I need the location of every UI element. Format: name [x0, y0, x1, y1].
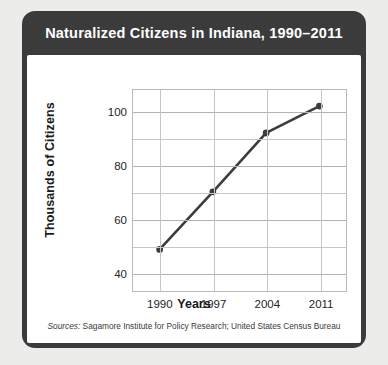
sources-note: Sources: Sagamore Institute for Policy R…	[27, 321, 361, 331]
series-line	[160, 106, 320, 249]
data-point-marker	[263, 130, 270, 137]
y-axis-tick-label: 100	[108, 106, 127, 118]
gridline-vertical	[214, 90, 215, 291]
gridline-horizontal	[133, 166, 346, 167]
gridline-vertical	[267, 90, 268, 291]
gridline-horizontal-minor	[133, 247, 346, 248]
gridline-horizontal	[133, 220, 346, 221]
page-title: Naturalized Citizens in Indiana, 1990–20…	[45, 25, 343, 41]
y-axis-tick-label: 80	[114, 160, 127, 172]
chart-card: Naturalized Citizens in Indiana, 1990–20…	[22, 11, 366, 348]
y-axis-tick-label: 60	[114, 214, 127, 226]
sources-prefix: Sources:	[48, 321, 81, 331]
x-axis-label: Years	[27, 297, 361, 311]
gridline-vertical	[321, 90, 322, 291]
y-axis-label: Thousands of Citizens	[43, 85, 57, 255]
plot-area: 4060801001990199720042011	[132, 89, 347, 292]
gridline-vertical	[160, 90, 161, 291]
line-series	[133, 90, 346, 291]
gridline-horizontal-minor	[133, 139, 346, 140]
chart-page: Naturalized Citizens in Indiana, 1990–20…	[0, 0, 388, 365]
chart-panel: Thousands of Citizens 406080100199019972…	[27, 55, 361, 343]
y-axis-tick-label: 40	[114, 268, 127, 280]
chart-title-bar: Naturalized Citizens in Indiana, 1990–20…	[22, 11, 366, 55]
chart-container: Thousands of Citizens 406080100199019972…	[27, 55, 361, 343]
sources-text: Sagamore Institute for Policy Research; …	[80, 321, 340, 331]
gridline-horizontal	[133, 112, 346, 113]
gridline-horizontal	[133, 274, 346, 275]
gridline-horizontal-minor	[133, 193, 346, 194]
